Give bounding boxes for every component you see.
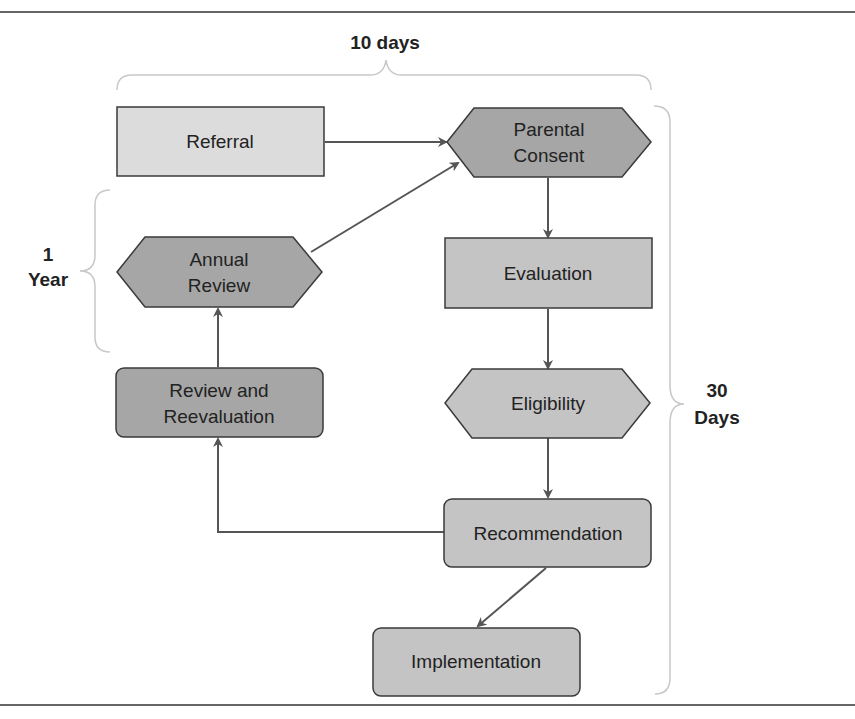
timespan-label-year: Year bbox=[28, 269, 69, 290]
node-evaluation: Evaluation bbox=[445, 238, 652, 308]
node-recommendation: Recommendation bbox=[444, 499, 651, 567]
node-parental-consent: Parental Consent bbox=[447, 108, 651, 177]
node-review-reevaluation-line1: Review and bbox=[169, 380, 268, 401]
timespan-label-30: 30 bbox=[706, 380, 727, 401]
node-annual-review-line1: Annual bbox=[189, 249, 248, 270]
timespan-label-10-days: 10 days bbox=[350, 32, 420, 53]
brace-10-days bbox=[117, 60, 651, 90]
node-implementation-label: Implementation bbox=[411, 651, 541, 672]
node-review-reevaluation-line2: Reevaluation bbox=[164, 406, 275, 427]
edge-recommendation-to-implementation bbox=[478, 568, 546, 626]
node-annual-review-line2: Review bbox=[188, 275, 251, 296]
node-recommendation-label: Recommendation bbox=[474, 523, 623, 544]
node-parental-consent-line2: Consent bbox=[514, 145, 585, 166]
node-referral: Referral bbox=[117, 107, 324, 176]
node-eligibility-label: Eligibility bbox=[511, 393, 585, 414]
brace-1-year bbox=[80, 190, 110, 352]
node-review-reevaluation: Review and Reevaluation bbox=[116, 368, 323, 437]
timespan-label-days: Days bbox=[694, 407, 739, 428]
node-annual-review: Annual Review bbox=[117, 237, 322, 307]
node-referral-label: Referral bbox=[186, 131, 254, 152]
node-evaluation-label: Evaluation bbox=[504, 263, 593, 284]
node-eligibility: Eligibility bbox=[445, 369, 650, 438]
brace-30-days bbox=[654, 106, 684, 694]
edge-recommendation-to-review bbox=[218, 439, 444, 532]
node-implementation: Implementation bbox=[373, 628, 580, 696]
timespan-label-1: 1 bbox=[43, 244, 54, 265]
edge-annual-to-consent bbox=[311, 163, 458, 252]
node-parental-consent-line1: Parental bbox=[514, 119, 585, 140]
flowchart-diagram: 10 days 1 Year 30 Days Referral Parental… bbox=[0, 0, 855, 719]
